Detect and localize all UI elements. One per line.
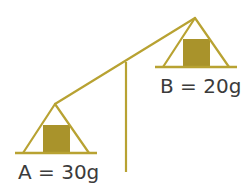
pan-a: A = 30g: [15, 104, 99, 184]
pan-b: B = 20g: [155, 18, 241, 98]
label-a: A = 30g: [18, 160, 99, 184]
label-b: B = 20g: [160, 74, 241, 98]
weight-a: [43, 125, 70, 153]
balance-scale-diagram: B = 20g A = 30g: [0, 0, 252, 190]
weight-b: [183, 39, 210, 67]
